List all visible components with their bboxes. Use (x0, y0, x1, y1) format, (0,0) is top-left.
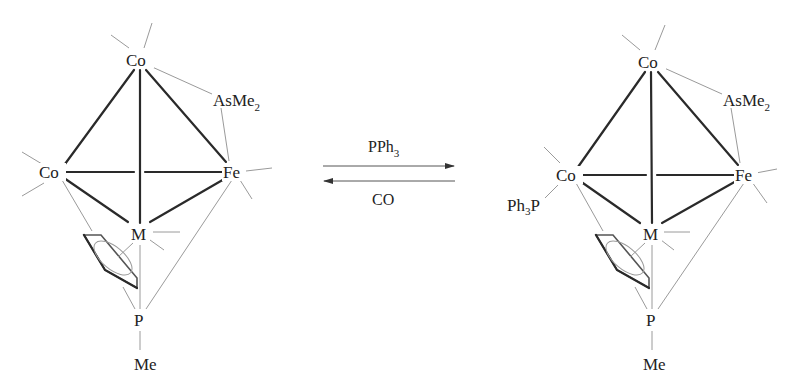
product-m-label: M (643, 225, 658, 244)
reaction-scheme: Co Co Fe M P Me AsMe2 PPh3 CO (0, 0, 799, 390)
product-cyclopentadienyl-ring (596, 235, 650, 288)
reactant-co-as-bond (150, 66, 212, 94)
product-as-fe-bond (731, 108, 740, 163)
reactant-co-top-label: Co (126, 51, 146, 70)
reactant-cyclopentadienyl-ring (84, 235, 138, 288)
reactant-m-label: M (131, 225, 146, 244)
product-metal-framework (578, 72, 738, 223)
reactant-metal-framework (64, 70, 226, 223)
reactant-asme2-label: AsMe2 (213, 91, 260, 113)
product-asme2-label: AsMe2 (723, 91, 770, 113)
product-me-label: Me (643, 355, 666, 374)
product-co-as-bond (662, 67, 722, 94)
forward-reagent-label: PPh3 (368, 138, 400, 159)
product-co-top-label: Co (638, 53, 658, 72)
product-p-label: P (646, 311, 655, 330)
reactant-structure: Co Co Fe M P Me AsMe2 (22, 23, 272, 374)
reverse-reagent-label: CO (372, 191, 394, 208)
product-pph3-label: Ph3P (507, 196, 540, 217)
product-co-left-label: Co (556, 166, 576, 185)
product-structure: Co Co Fe M P Me AsMe2 Ph3P (507, 25, 777, 374)
product-co-pph3-bond (545, 185, 558, 198)
reactant-co-left-label: Co (39, 163, 59, 182)
reactant-me-label: Me (134, 355, 157, 374)
reactant-fe-label: Fe (223, 163, 240, 182)
reactant-p-label: P (134, 311, 143, 330)
equilibrium-arrows: PPh3 CO (323, 138, 455, 208)
product-fe-label: Fe (735, 166, 752, 185)
reactant-as-fe-bond (221, 108, 229, 161)
